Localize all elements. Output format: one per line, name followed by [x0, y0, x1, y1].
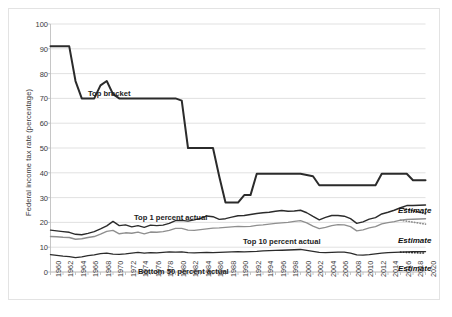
x-tick-label: 1970 — [116, 261, 125, 277]
x-tick-label: 1996 — [279, 261, 288, 277]
x-tick-label: 1994 — [266, 261, 275, 277]
x-tick-label: 2012 — [379, 261, 388, 277]
chart-figure: 0102030405060708090100 19601962196419661… — [0, 0, 452, 317]
x-tick-label: 2004 — [329, 261, 338, 277]
x-tick-label: 1990 — [241, 261, 250, 277]
estimate-label-bottom50: Estimate — [398, 264, 431, 273]
x-tick-label: 1988 — [229, 261, 238, 277]
x-tick-label: 1962 — [66, 261, 75, 277]
x-tick-label: 1964 — [79, 261, 88, 277]
x-tick-label: 1968 — [104, 261, 113, 277]
top-bracket-label: Top bracket — [88, 89, 130, 98]
x-tick-label: 1966 — [91, 261, 100, 277]
x-tick-label: 1960 — [54, 261, 63, 277]
bottom-50-percent-label: Bottom 50 percent actual — [138, 267, 229, 276]
top-10-percent-label: Top 10 percent actual — [243, 237, 321, 246]
x-tick-label: 2010 — [366, 261, 375, 277]
estimate-label-top1: Estimate — [398, 206, 431, 215]
x-tick-label: 1998 — [291, 261, 300, 277]
x-tick-label: 2002 — [316, 261, 325, 277]
top-1-percent-label: Top 1 percent actual — [134, 213, 207, 222]
estimate-label-top10: Estimate — [398, 236, 431, 245]
x-tick-label: 2008 — [354, 261, 363, 277]
y-axis-title: Federal income tax rate (percentage) — [24, 33, 33, 273]
x-tick-label: 1972 — [129, 261, 138, 277]
x-tick-label: 2006 — [341, 261, 350, 277]
x-tick-label: 1992 — [254, 261, 263, 277]
x-tick-label: 2000 — [304, 261, 313, 277]
